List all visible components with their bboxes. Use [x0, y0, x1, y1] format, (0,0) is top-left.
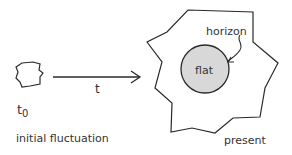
initial-fluctuation-shape [16, 62, 43, 87]
flat-label: flat [195, 65, 213, 76]
horizon-label: horizon [206, 26, 247, 37]
time-arrow-label: t [95, 83, 100, 95]
initial-fluctuation-caption: initial fluctuation [16, 133, 109, 144]
present-caption: present [224, 135, 266, 146]
t0-label-subscript: 0 [22, 108, 28, 119]
horizon-pointer-arrow [228, 35, 241, 61]
t0-label: t0 [17, 103, 28, 119]
